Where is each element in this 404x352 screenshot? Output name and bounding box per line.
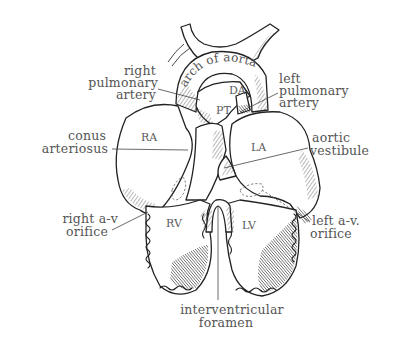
svg-text:foramen: foramen — [199, 315, 253, 330]
label-RA: RA — [141, 131, 158, 144]
label-left-pulmonary-artery: left pulmonary artery — [279, 71, 350, 110]
heart-anatomy-diagram: arch of aorta — [0, 0, 404, 352]
svg-text:arteriosus: arteriosus — [42, 141, 108, 156]
svg-text:orifice: orifice — [310, 226, 352, 241]
label-DA: DA — [229, 84, 247, 97]
svg-text:orifice: orifice — [66, 224, 108, 239]
svg-text:artery: artery — [116, 87, 157, 102]
label-LV: LV — [242, 219, 257, 232]
label-PT: PT — [216, 104, 231, 117]
svg-text:artery: artery — [279, 95, 320, 110]
label-LA: LA — [251, 141, 267, 154]
label-interventricular-foramen: interventricular foramen — [180, 302, 284, 330]
left-ventricle — [226, 200, 299, 296]
label-conus-arteriosus: conus arteriosus — [42, 128, 108, 156]
label-left-av-orifice: left a-v. orifice — [310, 213, 360, 241]
label-right-av-orifice: right a-v orifice — [62, 211, 118, 239]
label-right-pulmonary-artery: right pulmonary artery — [88, 63, 159, 102]
label-RV: RV — [166, 217, 183, 230]
svg-text:vestibule: vestibule — [309, 143, 369, 158]
conus-arteriosus-body — [186, 123, 226, 200]
label-aortic-vestibule: aortic vestibule — [309, 130, 369, 158]
